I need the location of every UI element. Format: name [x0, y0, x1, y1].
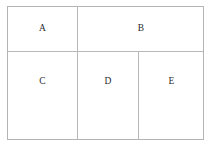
region-e-label: E	[168, 77, 174, 87]
region-b-label: B	[138, 24, 145, 34]
partition-diagram: A B C D E	[0, 0, 210, 152]
region-b: B	[78, 7, 204, 51]
region-d: D	[78, 52, 138, 140]
region-d-label: D	[104, 77, 111, 87]
region-e: E	[139, 52, 204, 140]
region-c-label: C	[39, 77, 46, 87]
region-c: C	[8, 52, 77, 140]
region-a: A	[8, 7, 77, 51]
region-a-label: A	[39, 24, 46, 34]
